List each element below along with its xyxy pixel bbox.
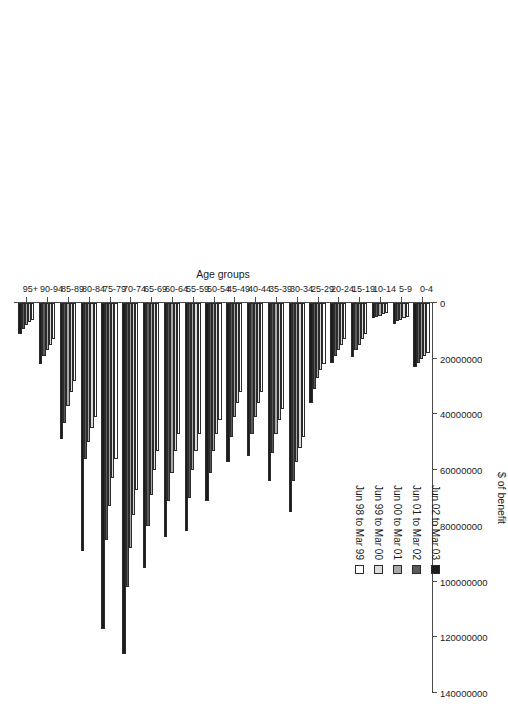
- bar: [156, 303, 159, 451]
- legend-label: Jun 02 to Mar 03: [430, 485, 441, 560]
- bar: [271, 303, 274, 453]
- bar: [343, 303, 346, 339]
- category-axis-tick-label: 95+: [23, 285, 38, 294]
- bar: [105, 303, 108, 540]
- bar: [382, 303, 385, 314]
- category-axis-tick-label: 15-19: [352, 285, 375, 294]
- bar: [146, 303, 149, 526]
- bar: [340, 303, 343, 345]
- bar: [185, 303, 188, 531]
- bar: [281, 303, 284, 409]
- bar: [402, 303, 405, 318]
- bar: [295, 303, 298, 462]
- bar: [375, 303, 378, 317]
- bar: [188, 303, 191, 498]
- category-axis-tick: [380, 297, 381, 302]
- bar: [334, 303, 337, 356]
- category-axis-tick-label: 10-14: [373, 285, 396, 294]
- value-axis-tick-label: 120000000: [440, 633, 488, 643]
- bar: [236, 303, 239, 403]
- bar: [322, 303, 325, 364]
- category-axis-tick-label: 25-29: [311, 285, 334, 294]
- value-axis-tick: [432, 581, 437, 582]
- category-axis-tick-label: 35-39: [269, 285, 292, 294]
- category-axis-tick: [234, 297, 235, 302]
- bar: [215, 303, 218, 434]
- value-axis-tick-label: 100000000: [440, 578, 488, 588]
- category-axis-tick: [422, 297, 423, 302]
- bar: [313, 303, 316, 389]
- bar: [358, 303, 361, 345]
- bar: [423, 303, 426, 356]
- bar: [28, 303, 31, 323]
- bar: [111, 303, 114, 479]
- bar: [278, 303, 281, 420]
- category-axis-tick: [26, 297, 27, 302]
- bar: [247, 303, 250, 456]
- bar: [260, 303, 263, 392]
- bar: [90, 303, 93, 428]
- category-axis-tick-label: 70-74: [123, 285, 146, 294]
- bar: [167, 303, 170, 501]
- bar: [108, 303, 111, 506]
- bar: [309, 303, 312, 403]
- legend-swatch: [393, 565, 402, 574]
- value-axis-tick: [432, 692, 437, 693]
- category-axis-tick: [130, 297, 131, 302]
- bar: [364, 303, 367, 334]
- bar: [250, 303, 253, 434]
- category-axis-tick: [359, 297, 360, 302]
- bar: [81, 303, 84, 551]
- legend-label: Jun 98 to Mar 99: [354, 485, 365, 560]
- category-axis-tick-label: 40-44: [248, 285, 271, 294]
- bar: [63, 303, 66, 423]
- category-axis-tick-label: 60-64: [165, 285, 188, 294]
- value-axis-title: $ of benefit: [496, 472, 508, 524]
- category-axis-tick-label: 45-49: [227, 285, 250, 294]
- bar: [18, 303, 21, 334]
- bar: [254, 303, 257, 417]
- bar: [164, 303, 167, 537]
- category-axis-tick: [47, 297, 48, 302]
- value-axis-tick: [432, 636, 437, 637]
- bar: [66, 303, 69, 406]
- bar: [330, 303, 333, 363]
- category-axis-tick-label: 75-79: [103, 285, 126, 294]
- legend-label: Jun 99 to Mar 00: [373, 485, 384, 560]
- category-axis-tick: [89, 297, 90, 302]
- bar: [198, 303, 201, 434]
- bar: [413, 303, 416, 367]
- bar: [298, 303, 301, 448]
- category-axis-tick: [338, 297, 339, 302]
- bar: [393, 303, 396, 324]
- bar: [426, 303, 429, 353]
- bar: [94, 303, 97, 417]
- bar: [378, 303, 381, 316]
- bar: [87, 303, 90, 442]
- bar: [372, 303, 375, 318]
- bar: [319, 303, 322, 370]
- category-axis-tick: [151, 297, 152, 302]
- category-axis-tick-label: 65-69: [144, 285, 167, 294]
- category-axis-title: Age groups: [196, 268, 250, 280]
- category-axis-tick-label: 5-9: [399, 285, 412, 294]
- chart-legend: Jun 98 to Mar 99Jun 99 to Mar 00Jun 00 t…: [355, 488, 465, 574]
- bar: [31, 303, 34, 320]
- bar: [406, 303, 409, 317]
- bar: [122, 303, 125, 654]
- bar: [153, 303, 156, 470]
- category-axis-tick: [318, 297, 319, 302]
- legend-swatch: [431, 565, 440, 574]
- bar: [209, 303, 212, 473]
- bar: [84, 303, 87, 459]
- legend-label: Jun 00 to Mar 01: [392, 485, 403, 560]
- bar: [135, 303, 138, 490]
- bar: [239, 303, 242, 392]
- value-axis-tick: [432, 358, 437, 359]
- bar: [354, 303, 357, 350]
- bar: [143, 303, 146, 568]
- category-axis-tick-label: 20-24: [331, 285, 354, 294]
- category-axis-tick: [276, 297, 277, 302]
- category-axis-line: [14, 302, 433, 303]
